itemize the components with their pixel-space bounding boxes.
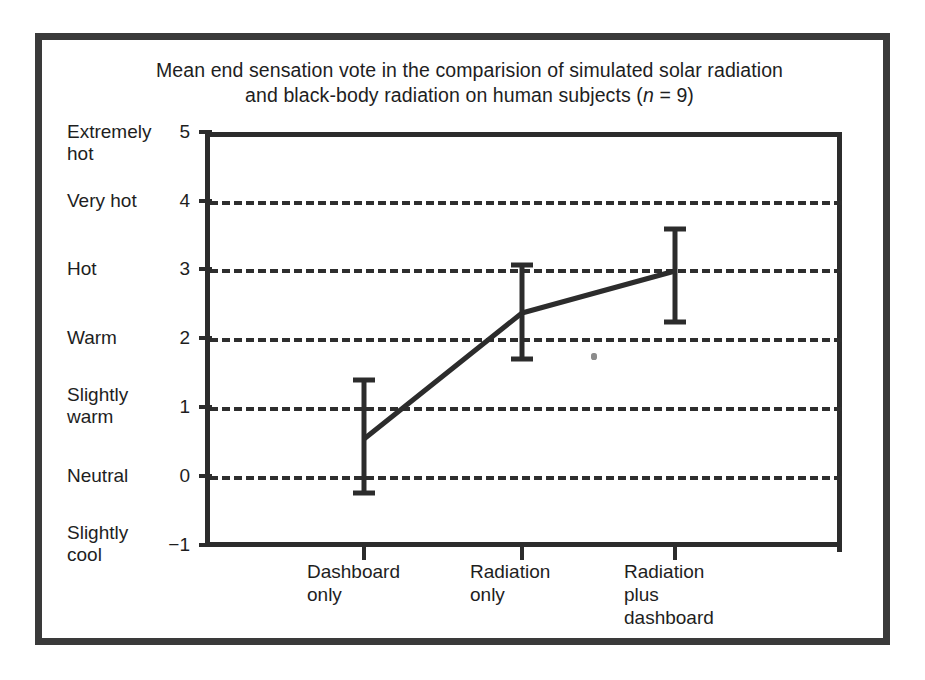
figure-frame: Mean end sensation vote in the comparisi… xyxy=(35,33,890,645)
chart-title: Mean end sensation vote in the comparisi… xyxy=(97,58,842,108)
y-tick-label-5: 5 xyxy=(160,121,190,143)
chart-title-line2-pre: and black-body radiation on human subjec… xyxy=(245,84,643,106)
y-tick-label-1: 1 xyxy=(160,396,190,418)
gridline-0 xyxy=(210,476,842,480)
gridline-5 xyxy=(210,132,842,137)
x-label-radiation-only: Radiation only xyxy=(470,560,620,606)
y-tick-label-2: 2 xyxy=(160,327,190,349)
chart-title-line1: Mean end sensation vote in the comparisi… xyxy=(156,59,783,81)
gridline-2 xyxy=(210,338,842,342)
chart-title-n-symbol: n xyxy=(643,84,654,106)
x-label-radiation-plus-dashboard: Radiation plus dashboard xyxy=(624,560,774,629)
y-tick-label-0: 0 xyxy=(160,465,190,487)
y-tick-label-4: 4 xyxy=(160,190,190,212)
scan-artifact-speck xyxy=(591,353,597,360)
y-tick-label-3: 3 xyxy=(160,258,190,280)
x-label-dashboard-only: Dashboard only xyxy=(307,560,457,606)
x-tick-dashboard-only xyxy=(362,547,366,560)
x-tick-radiation-plus-dashboard xyxy=(673,547,677,560)
gridline-4 xyxy=(210,201,842,205)
y-tick-label-minus1: −1 xyxy=(160,534,190,556)
x-tick-radiation-only xyxy=(520,547,524,560)
chart-title-line2-post: = 9) xyxy=(654,84,694,106)
gridline-1 xyxy=(210,407,842,411)
plot-frame-right-edge xyxy=(837,132,842,552)
gridline-3 xyxy=(210,269,842,273)
